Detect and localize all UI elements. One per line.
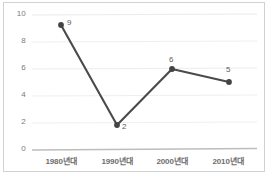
data-point-markers: [58, 22, 232, 128]
data-point-marker: [226, 79, 232, 85]
data-label-2010s: 5: [226, 65, 230, 74]
y-tick-label-2: 2: [6, 117, 26, 126]
y-tick-label-4: 4: [6, 90, 26, 99]
x-tick-label-2010s: 2010년대: [200, 155, 256, 166]
gridlines: [32, 14, 257, 123]
line-chart-plot: [4, 3, 264, 171]
data-label-2000s: 6: [169, 55, 173, 64]
chart-frame: 10 8 6 4 2 0 1980년대 1990년대 2000년대 2010년대…: [3, 2, 265, 172]
y-tick-label-10: 10: [6, 9, 26, 18]
data-series-line: [61, 25, 229, 125]
data-label-1990s: 2: [122, 122, 126, 131]
data-point-marker: [114, 122, 120, 128]
x-tick-label-1980s: 1980년대: [33, 155, 89, 166]
data-point-marker: [58, 22, 64, 28]
x-tick-label-1990s: 1990년대: [89, 155, 145, 166]
x-axis-line: [32, 149, 257, 151]
y-tick-label-0: 0: [6, 144, 26, 153]
data-label-1980s: 9: [67, 18, 71, 27]
data-point-marker: [169, 66, 175, 72]
y-tick-label-6: 6: [6, 63, 26, 72]
x-tick-label-2000s: 2000년대: [144, 155, 200, 166]
y-tick-label-8: 8: [6, 36, 26, 45]
